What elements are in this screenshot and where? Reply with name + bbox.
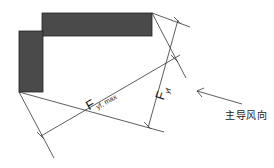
projection-line-top-right-a <box>152 13 190 27</box>
building-wind-diagram <box>0 0 274 168</box>
tick-mark <box>144 122 151 129</box>
building-top-bar <box>42 13 152 36</box>
wind-arrow-shaft <box>197 91 242 104</box>
building-left-bar <box>19 31 43 92</box>
projection-line-bottom-left-b <box>19 92 54 158</box>
wind-direction-label: 主导风向 <box>225 107 267 122</box>
f-yf-dimension-line <box>148 20 178 128</box>
